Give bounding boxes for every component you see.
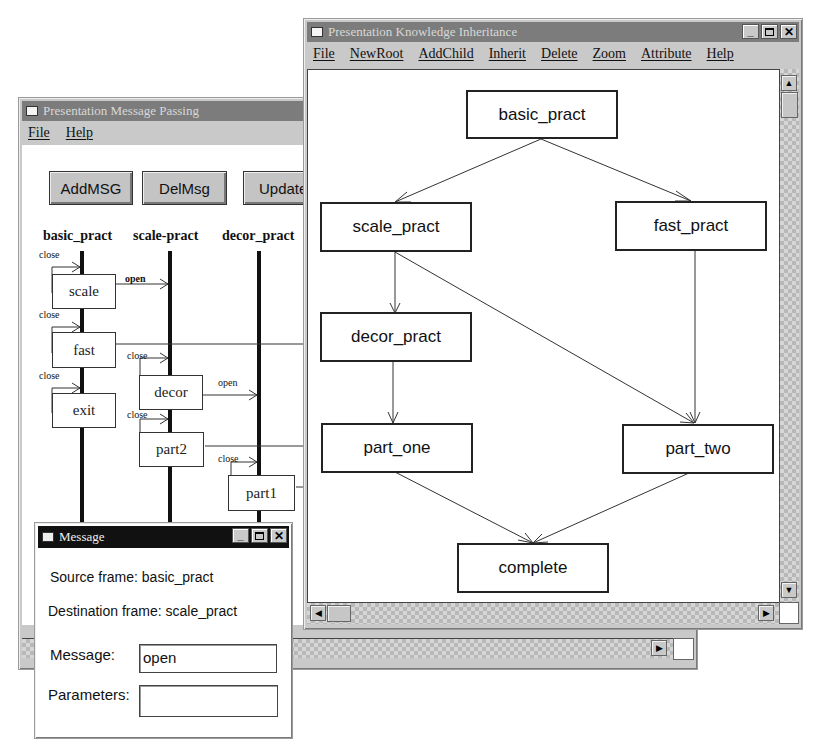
minimize-button[interactable]: _	[232, 528, 249, 543]
self-message-label: close	[39, 309, 60, 320]
arrow-left-icon: ◀	[315, 608, 322, 618]
size-box	[779, 602, 799, 624]
inheritance-canvas: basic_pract scale_pract fast_pract decor…	[307, 69, 779, 602]
minimize-button[interactable]: _	[742, 24, 759, 39]
menu-addchild[interactable]: AddChild	[418, 46, 473, 62]
maximize-button[interactable]	[251, 528, 268, 543]
scroll-right-button[interactable]: ▶	[758, 605, 774, 621]
message-label-open: open	[218, 377, 237, 388]
minimize-icon: _	[237, 528, 243, 542]
self-message-label: close	[218, 453, 239, 464]
menu-help[interactable]: Help	[66, 125, 93, 141]
message-label-open: open	[125, 273, 146, 284]
message-dialog-titlebar[interactable]: Message _ ✕	[38, 526, 289, 548]
horizontal-scrollbar[interactable]	[307, 602, 779, 624]
minimize-icon: _	[747, 24, 753, 38]
inheritance-menubar: File NewRoot AddChild Inherit Delete Zoo…	[307, 43, 799, 65]
menu-newroot[interactable]: NewRoot	[350, 46, 404, 62]
message-dialog: Message _ ✕ Source frame: basic_pract De…	[34, 522, 293, 739]
activation-part2[interactable]: part2	[139, 432, 204, 467]
activation-fast[interactable]: fast	[52, 332, 116, 368]
message-input[interactable]: open	[139, 644, 277, 673]
window-title: Presentation Message Passing	[43, 103, 199, 119]
window-icon	[26, 106, 38, 116]
node-basic-pract[interactable]: basic_pract	[466, 90, 618, 139]
activation-scale[interactable]: scale	[52, 274, 116, 309]
window-title: Presentation Knowledge Inheritance	[328, 24, 517, 40]
node-part-one[interactable]: part_one	[321, 423, 473, 473]
self-message-label: close	[39, 370, 60, 381]
menu-inherit[interactable]: Inherit	[489, 46, 526, 62]
arrow-down-icon: ▼	[785, 585, 794, 595]
node-complete[interactable]: complete	[457, 543, 609, 593]
self-message-label: close	[127, 350, 148, 361]
node-fast-pract[interactable]: fast_pract	[615, 201, 767, 251]
menu-file[interactable]: File	[313, 46, 335, 62]
horizontal-scroll-thumb[interactable]	[327, 605, 351, 622]
inheritance-window: Presentation Knowledge Inheritance _ ✕ F…	[303, 18, 803, 630]
source-frame-label: Source frame: basic_pract	[50, 569, 213, 585]
arrow-right-icon: ▶	[656, 643, 663, 653]
close-icon: ✕	[274, 529, 284, 543]
close-button[interactable]: ✕	[780, 24, 797, 39]
close-button[interactable]: ✕	[270, 528, 287, 543]
self-message-label: close	[127, 409, 148, 420]
vertical-scrollbar[interactable]	[779, 69, 799, 602]
inheritance-titlebar[interactable]: Presentation Knowledge Inheritance _ ✕	[307, 22, 799, 42]
activation-exit[interactable]: exit	[52, 393, 116, 428]
maximize-icon	[255, 532, 264, 540]
scroll-left-button[interactable]: ◀	[310, 605, 326, 621]
scroll-right-button[interactable]: ▶	[651, 640, 667, 656]
size-box	[673, 638, 694, 660]
menu-help[interactable]: Help	[707, 46, 734, 62]
node-part-two[interactable]: part_two	[622, 424, 774, 474]
window-title: Message	[59, 529, 105, 545]
activation-decor[interactable]: decor	[139, 375, 203, 410]
parameters-label: Parameters:	[48, 686, 130, 703]
node-scale-pract[interactable]: scale_pract	[320, 202, 472, 252]
destination-frame-label: Destination frame: scale_pract	[48, 603, 237, 619]
arrow-right-icon: ▶	[763, 608, 770, 618]
maximize-button[interactable]	[761, 24, 778, 39]
parameters-input[interactable]	[139, 685, 278, 717]
window-controls: _ ✕	[742, 24, 797, 39]
menu-attribute[interactable]: Attribute	[641, 46, 692, 62]
node-decor-pract[interactable]: decor_pract	[320, 312, 472, 362]
window-controls: _ ✕	[232, 528, 287, 543]
window-icon	[42, 532, 54, 542]
arrow-up-icon: ▲	[785, 78, 794, 88]
maximize-icon	[765, 28, 774, 36]
close-icon: ✕	[784, 25, 794, 39]
scroll-down-button[interactable]: ▼	[781, 582, 797, 598]
menu-file[interactable]: File	[28, 125, 50, 141]
scroll-up-button[interactable]: ▲	[781, 75, 797, 91]
vertical-scroll-thumb[interactable]	[781, 92, 798, 118]
activation-part1[interactable]: part1	[228, 475, 295, 511]
self-message-label: close	[39, 249, 60, 260]
message-label: Message:	[50, 646, 115, 663]
window-icon	[311, 27, 323, 37]
menu-delete[interactable]: Delete	[541, 46, 578, 62]
menu-zoom[interactable]: Zoom	[593, 46, 626, 62]
